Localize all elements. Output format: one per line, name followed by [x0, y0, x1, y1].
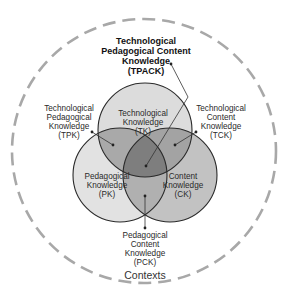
svg-text:Technological: Technological — [118, 109, 168, 118]
svg-text:Technological: Technological — [196, 104, 246, 113]
svg-text:Pedagogical: Pedagogical — [46, 113, 91, 122]
tpack-label: Technological Pedagogical Content Knowle… — [101, 36, 191, 76]
svg-text:Knowledge: Knowledge — [122, 56, 170, 66]
contexts-label: Contexts — [124, 269, 165, 281]
svg-text:(PCK): (PCK) — [134, 258, 157, 267]
svg-text:(TPACK): (TPACK) — [128, 66, 164, 76]
svg-text:(PK): (PK) — [99, 190, 116, 199]
svg-text:Knowledge: Knowledge — [201, 122, 242, 131]
pck-label: Pedagogical Content Knowledge (PCK) — [122, 231, 167, 267]
svg-text:Knowledge: Knowledge — [49, 122, 90, 131]
svg-text:(TK): (TK) — [135, 127, 151, 136]
svg-text:Technological: Technological — [44, 104, 94, 113]
svg-text:Pedagogical: Pedagogical — [122, 231, 167, 240]
svg-text:Pedagogical: Pedagogical — [84, 172, 129, 181]
svg-text:(TCK): (TCK) — [210, 131, 232, 140]
svg-text:(CK): (CK) — [175, 190, 192, 199]
svg-text:Content: Content — [169, 172, 198, 181]
svg-text:Knowledge: Knowledge — [125, 249, 166, 258]
svg-text:Pedagogical Content: Pedagogical Content — [101, 46, 191, 56]
svg-text:Knowledge: Knowledge — [87, 181, 128, 190]
svg-text:Content: Content — [207, 113, 236, 122]
svg-text:Content: Content — [131, 240, 160, 249]
tpack-diagram: Technological Pedagogical Content Knowle… — [0, 0, 284, 295]
svg-text:Technological: Technological — [116, 36, 176, 46]
tck-label: Technological Content Knowledge (TCK) — [196, 104, 246, 140]
svg-text:Knowledge: Knowledge — [163, 181, 204, 190]
svg-text:Knowledge: Knowledge — [123, 118, 164, 127]
tpk-label: Technological Pedagogical Knowledge (TPK… — [44, 104, 94, 140]
svg-text:(TPK): (TPK) — [58, 131, 80, 140]
